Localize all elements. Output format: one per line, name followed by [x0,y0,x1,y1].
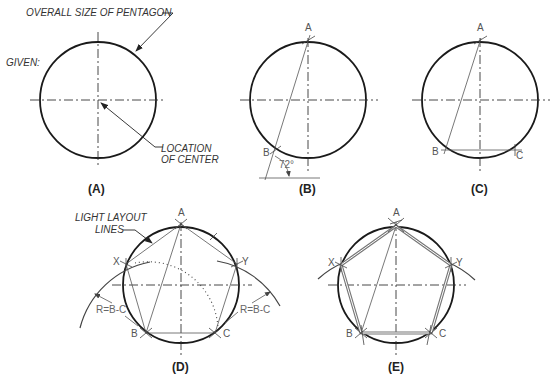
overall-size-arrow [136,13,173,51]
panel-c: A B C (C) [412,22,550,196]
panel-a: GIVEN: OVERALL SIZE OF PENTAGON LOCATION… [6,7,219,196]
layout-lines-label-line1: LIGHT LAYOUT [75,212,147,223]
point-b-label: B [263,147,270,158]
radius-arrow-right [252,292,270,303]
point-y-label: Y [242,256,249,267]
point-x-label: X [328,257,335,268]
angle-label: 72° [279,159,294,170]
point-y-label: Y [456,257,463,268]
pentagon-construction-diagram: GIVEN: OVERALL SIZE OF PENTAGON LOCATION… [0,0,555,385]
point-b-label: B [432,146,439,157]
line-a-y [181,224,237,264]
caption-a: (A) [88,182,105,196]
point-a-label: A [477,22,484,33]
dotted-arc [135,262,218,328]
location-arrow [101,103,163,147]
caption-e: (E) [388,360,404,374]
radius-label-right: R=B-C [240,304,270,315]
radius-label-left: R=B-C [96,304,126,315]
location-label-line2: OF CENTER [161,154,219,165]
line-a-b [146,224,181,333]
point-x-label: X [113,256,120,267]
cross-x [335,257,347,272]
point-c-label: C [516,150,523,161]
panel-e: A X Y B C (E) [318,207,475,374]
layout-lines-label-line2: LINES [95,224,124,235]
overall-size-label: OVERALL SIZE OF PENTAGON [26,7,172,18]
panel-b: A B 72° (B) [240,22,378,196]
point-b-label: B [346,328,353,339]
point-b-label: B [131,328,138,339]
line-a-b [361,226,396,333]
point-c-label: C [223,328,230,339]
caption-d: (D) [172,360,189,374]
arc-from-c [80,262,150,328]
point-c-label: C [439,328,446,339]
point-a-label: A [305,22,312,33]
caption-c: (C) [471,182,488,196]
arc-from-b [217,261,280,306]
line-a-b [444,38,481,154]
location-label-line1: LOCATION [161,143,212,154]
caption-b: (B) [299,182,316,196]
point-a-label: A [178,207,185,218]
panel-d: LIGHT LAYOUT LINES R=B-C R=B-C A X Y B C… [75,207,280,374]
radius-arrow-left [95,294,112,303]
point-a-label: A [393,207,400,218]
given-label: GIVEN: [6,57,40,68]
